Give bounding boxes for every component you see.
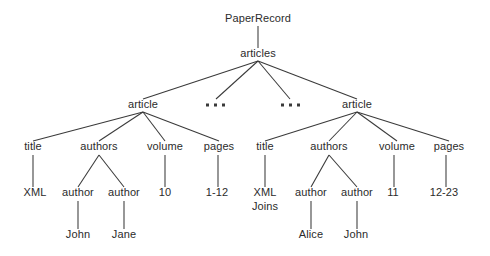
ellipsis-dot [297,104,300,107]
tree-node-a1-john: John [66,228,90,240]
tree-node-article1: article [128,98,158,110]
tree-node-a1-xml: XML [24,186,47,198]
tree-diagram-canvas: PaperRecordarticlesarticlearticletitleau… [0,0,490,256]
tree-node-articles: articles [240,47,276,59]
tree-node-a1-title: title [24,140,42,152]
tree-node-a2-xml2: Joins [252,200,279,212]
tree-node-a1-author2: author [108,186,140,198]
tree-edge [357,112,449,141]
ellipsis-dot [289,104,292,107]
tree-node-a1-author1: author [62,186,94,198]
tree-edge [216,61,258,99]
tree-edge [33,112,143,141]
tree-node-a2-xml1: XML [254,186,277,198]
ellipsis-dot [281,104,284,107]
tree-edge [329,155,357,187]
tree-node-a1-authors: authors [80,140,118,152]
tree-edge [143,61,258,99]
tree-node-a1-pg-val: 1-12 [206,186,228,198]
tree-edge [258,61,357,99]
tree-node-article2: article [342,98,372,110]
tree-node-a1-pages: pages [204,140,235,152]
tree-edge [99,112,143,141]
tree-edge [78,155,99,187]
tree-node-a2-alice: Alice [299,228,323,240]
tree-node-a1-volume: volume [147,140,183,152]
tree-edge [99,155,124,187]
tree-edge [357,112,397,141]
ellipsis-dot [214,104,217,107]
tree-node-a2-vol-val: 11 [387,186,399,198]
tree-node-a2-john: John [344,228,368,240]
tree-node-a1-vol-val: 10 [159,186,171,198]
tree-node-a2-title: title [256,140,274,152]
ellipsis-dot [206,104,209,107]
tree-node-a2-pg-val: 12-23 [430,186,459,198]
ellipsis-layer [206,104,300,107]
tree-node-a2-author2: author [341,186,373,198]
tree-node-a2-authors: authors [310,140,348,152]
tree-node-a2-author1: author [295,186,327,198]
tree-node-root: PaperRecord [225,12,291,24]
tree-node-a2-volume: volume [379,140,415,152]
tree-edge [311,155,329,187]
tree-node-a2-pages: pages [434,140,465,152]
tree-diagram: PaperRecordarticlesarticlearticletitleau… [0,0,490,256]
ellipsis-dot [222,104,225,107]
tree-node-a1-jane: Jane [112,228,136,240]
